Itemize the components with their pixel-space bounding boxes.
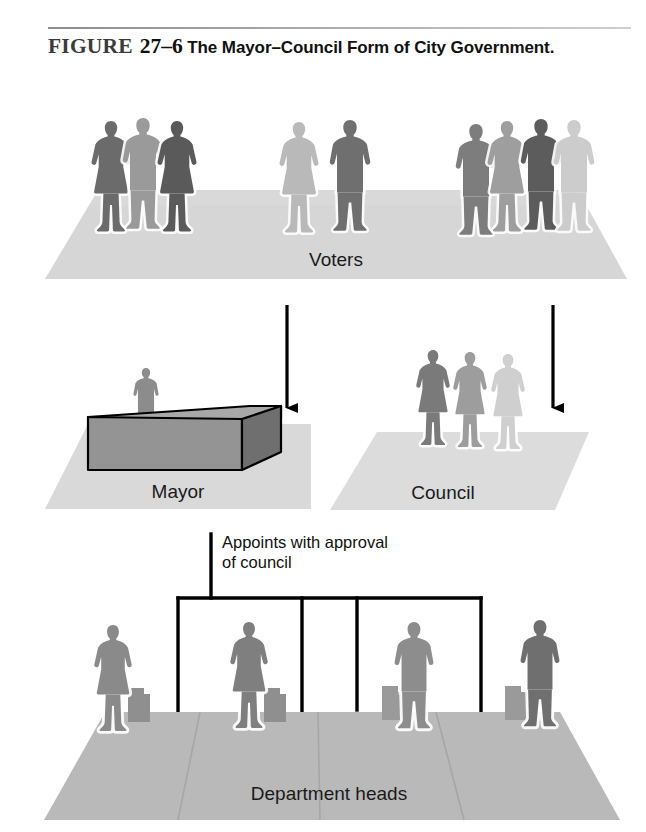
council-figure-1 bbox=[416, 350, 450, 445]
voters-label: Voters bbox=[309, 249, 363, 270]
department-head-4 bbox=[505, 620, 559, 726]
council-label: Council bbox=[411, 482, 474, 503]
diagram-canvas: Voters Mayor Council Department heads Ap… bbox=[0, 0, 646, 832]
mayor-label: Mayor bbox=[152, 481, 205, 502]
appoints-note-line-1: Appoints with approval bbox=[222, 533, 388, 551]
figure-root: FIGURE27–6 The Mayor–Council Form of Cit… bbox=[0, 0, 646, 832]
voter-figure-8 bbox=[521, 119, 561, 230]
department-heads-label: Department heads bbox=[251, 783, 407, 804]
mayor-desk bbox=[88, 406, 281, 470]
voter-figure-9 bbox=[554, 120, 594, 231]
department-head-2 bbox=[230, 622, 286, 728]
appoints-note: Appoints with approval of council bbox=[222, 533, 393, 571]
voter-figure-2 bbox=[123, 118, 163, 229]
department-head-1 bbox=[94, 625, 150, 731]
appoints-note-line-2: of council bbox=[222, 553, 292, 571]
voter-figure-5 bbox=[330, 120, 370, 231]
department-head-3 bbox=[382, 622, 433, 728]
